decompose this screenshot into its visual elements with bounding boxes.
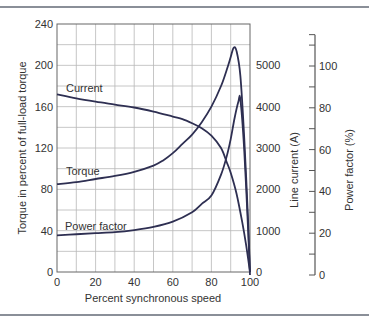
y-tick-label: 0 — [47, 266, 53, 278]
x-tick-label: 60 — [167, 276, 179, 288]
y3-tick-label: 0 — [319, 269, 325, 281]
y2-tick-label: 4000 — [256, 101, 280, 113]
power-factor-curve-label: Power factor — [65, 220, 127, 232]
y-tick-label: 40 — [41, 225, 53, 237]
y-tick-label: 80 — [41, 183, 53, 195]
x-tick-label: 80 — [205, 276, 217, 288]
y3-tick-label: 60 — [319, 144, 331, 156]
x-axis-title: Percent synchronous speed — [85, 292, 221, 304]
y2-axis-title: Line current (A) — [288, 132, 300, 208]
current-curve-label: Current — [66, 82, 103, 94]
y2-tick-label: 3000 — [256, 142, 280, 154]
y-tick-label: 160 — [35, 101, 53, 113]
y2-tick-label: 1000 — [256, 225, 280, 237]
x-tick-label: 0 — [54, 276, 60, 288]
y2-tick-label: 5000 — [256, 59, 280, 71]
y3-axis-title: Power factor (%) — [343, 129, 355, 211]
y2-tick-label: 0 — [256, 266, 262, 278]
y3-tick-label: 100 — [319, 60, 337, 72]
y-tick-label: 200 — [35, 59, 53, 71]
x-tick-label: 40 — [128, 276, 140, 288]
x-tick-label: 20 — [89, 276, 101, 288]
torque-curve-label: Torque — [66, 165, 100, 177]
y3-tick-label: 80 — [319, 102, 331, 114]
y-axis-title: Torque in percent of full-load torque — [16, 61, 28, 234]
y3-tick-label: 40 — [319, 185, 331, 197]
y-tick-label: 120 — [35, 142, 53, 154]
y3-tick-label: 20 — [319, 227, 331, 239]
y-tick-label: 240 — [35, 18, 53, 30]
y2-tick-label: 2000 — [256, 183, 280, 195]
motor-characteristics-chart: 0204060801000408012016020024001000200030… — [0, 0, 369, 320]
